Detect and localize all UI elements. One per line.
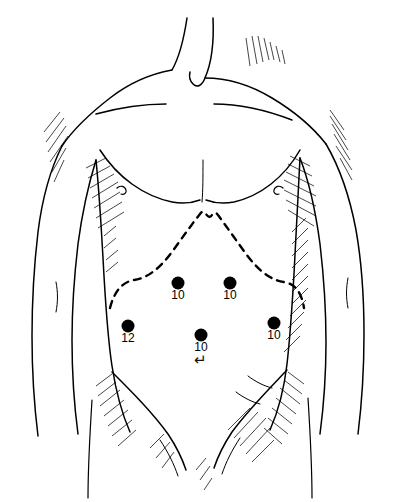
port-size-label: 10 [171, 288, 184, 302]
port-size-label: 10 [223, 288, 236, 302]
port-subcostal-left[interactable]: 10 [172, 277, 185, 290]
port-size-label: 10 [267, 328, 280, 342]
port-size-label: 10 [194, 340, 207, 354]
torso-illustration [0, 0, 412, 502]
port-lateral-right[interactable]: 10 [268, 317, 281, 330]
port-placement-figure: 10 10 12 10 10 ↵ [0, 0, 412, 502]
port-size-label: 12 [121, 331, 134, 345]
port-midline[interactable]: 10 [195, 329, 208, 342]
port-lateral-left[interactable]: 12 [122, 320, 135, 333]
port-subcostal-right[interactable]: 10 [224, 277, 237, 290]
